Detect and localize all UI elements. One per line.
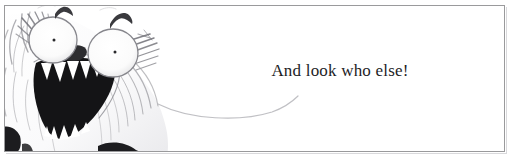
right-eye (88, 29, 138, 77)
right-pupil (114, 51, 117, 54)
picture-book-panel: And look who else! (0, 0, 511, 163)
caption-text: And look who else! (250, 60, 430, 82)
pencil-wisps (38, 5, 116, 10)
left-eye (29, 17, 77, 63)
right-eyebrow (110, 13, 132, 29)
body-contour-line (158, 96, 298, 118)
left-pupil (53, 39, 56, 42)
